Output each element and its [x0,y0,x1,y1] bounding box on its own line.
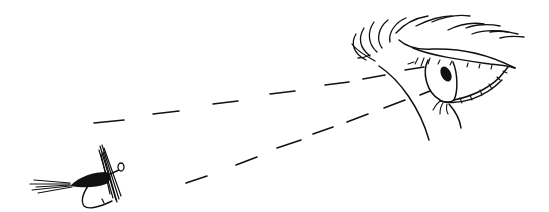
eyebrow [352,15,524,61]
line-drawing [0,0,549,212]
fly-hook-bend [82,186,112,208]
fly-hook-barb [102,199,104,203]
illustration-canvas: Eye looking at a fishing fly [0,0,549,212]
fly-body [70,172,111,187]
sight-line-upper [94,67,424,123]
pupil [438,65,454,84]
sight-line-lower [186,91,430,183]
fishing-fly [30,145,124,208]
fly-tail [30,180,72,193]
eyelid-upper [399,40,515,68]
